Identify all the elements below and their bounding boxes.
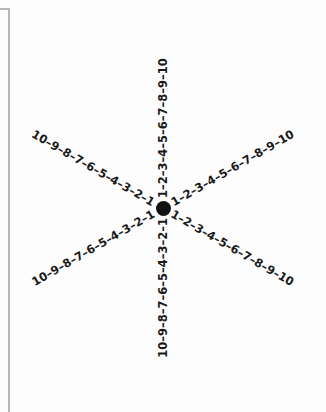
numbered-star-diagram: 1–2–3–4–5–6–7–8–9–10 10–9–8–7–6–5–4–3–2–… — [0, 0, 326, 412]
arm-lower-left-labels: 10–9–8–7–6–5–4–3–2–1 — [30, 207, 158, 289]
arm-up-labels: 1–2–3–4–5–6–7–8–9–10 — [156, 58, 170, 198]
arm-lower-right-labels: 1–2–3–4–5–6–7–8–9–10 — [168, 207, 296, 289]
arm-upper-right-labels: 1–2–3–4–5–6–7–8–9–10 — [168, 127, 296, 209]
center-dot — [156, 201, 171, 216]
arm-upper-left-labels: 10–9–8–7–6–5–4–3–2–1 — [30, 127, 158, 209]
arm-down-labels: 10–9–8–7–6–5–4–3–2–1 — [156, 218, 170, 358]
